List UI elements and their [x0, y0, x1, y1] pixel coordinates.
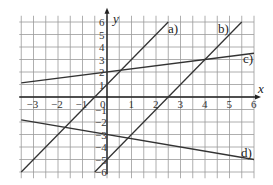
y-tick-label: 4: [99, 41, 105, 53]
y-axis-arrow-icon: [105, 8, 110, 14]
x-tick-label: 6: [251, 98, 257, 110]
y-tick-label: 5: [99, 29, 105, 41]
series-line: [21, 120, 254, 160]
x-tick-label: 4: [202, 98, 208, 110]
line-label-b: b): [218, 21, 229, 36]
x-tick-label: 3: [178, 98, 184, 110]
y-axis-label: y: [111, 11, 119, 26]
series-line: [21, 53, 254, 83]
x-tick-label: −3: [27, 98, 39, 110]
y-tick-label: −5: [95, 154, 107, 166]
y-tick-label: −2: [95, 116, 107, 128]
x-tick-label: −2: [51, 98, 63, 110]
x-axis-label: x: [257, 81, 264, 96]
x-tick-label: 1: [129, 98, 135, 110]
x-tick-label: −1: [76, 98, 88, 110]
x-tick-label: 5: [227, 98, 233, 110]
line-graph: −3−2−1123456654321−1−2−3−4−5−6 x y 0 a) …: [0, 0, 273, 185]
origin-label: 0: [100, 98, 106, 110]
y-tick-label: −6: [95, 166, 107, 178]
y-tick-label: 6: [99, 16, 105, 28]
y-tick-label: 3: [99, 54, 105, 66]
y-tick-label: −4: [95, 141, 107, 153]
line-label-a: a): [168, 21, 178, 36]
line-label-d: d): [241, 145, 252, 160]
line-label-c: c): [243, 51, 253, 66]
